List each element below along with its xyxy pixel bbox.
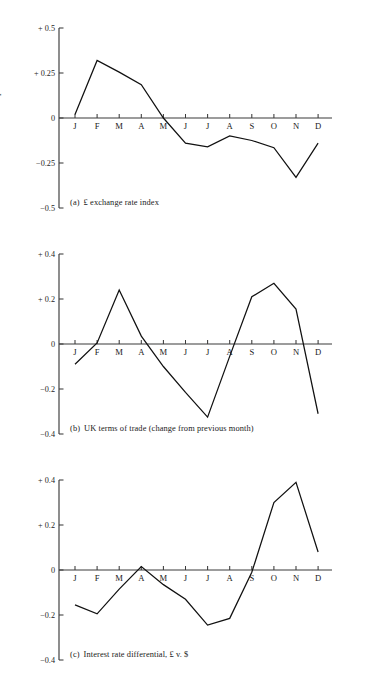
chart-c-caption-text: Interest rate differential, £ v. $ [84, 650, 189, 659]
chart-c-caption: (c)Interest rate differential, £ v. $ [70, 650, 188, 659]
x-tick-label-month: N [293, 347, 300, 357]
y-tick-label: + 0.2 [38, 521, 55, 530]
x-tick-label-month: S [249, 121, 254, 131]
x-tick-label-month: D [315, 121, 321, 131]
y-tick-label: + 0.25 [34, 69, 55, 78]
y-tick-label: + 0.4 [38, 476, 55, 485]
chart-a-caption-label: (a) [70, 198, 80, 207]
x-tick-label-month: M [160, 573, 168, 583]
y-tick-label: + 0.4 [38, 250, 55, 259]
x-tick-label-month: M [115, 347, 123, 357]
chart-a-container: deviation index points + 0.5+ 0.250−0.25… [0, 0, 373, 226]
chart-a-plot: + 0.5+ 0.250−0.25−0.5JFMAMJJASOND [0, 0, 373, 226]
chart-b-container: deviation % points + 0.4+ 0.20−0.2−0.4JF… [0, 226, 373, 452]
x-tick-label-month: S [249, 347, 254, 357]
y-tick-label: 0 [51, 340, 55, 349]
x-tick-label-month: M [160, 347, 168, 357]
y-tick-label: + 0.5 [38, 24, 55, 33]
data-series-line [75, 60, 318, 177]
x-tick-label-month: D [315, 347, 321, 357]
x-tick-label-month: M [160, 121, 168, 131]
x-tick-label-month: N [293, 573, 300, 583]
x-tick-label-month: O [271, 121, 277, 131]
x-tick-label-month: O [271, 573, 277, 583]
chart-a-caption: (a)£ exchange rate index [70, 198, 159, 207]
y-tick-label: −0.2 [40, 385, 55, 394]
y-tick-label: −0.25 [36, 159, 55, 168]
x-tick-label-month: D [315, 573, 321, 583]
x-tick-label-month: A [227, 121, 234, 131]
x-tick-label-month: F [95, 573, 100, 583]
x-tick-label-month: F [95, 347, 100, 357]
x-tick-label-month: O [271, 347, 277, 357]
chart-c-container: deviation % points + 0.4+ 0.20−0.2−0.4JF… [0, 452, 373, 678]
chart-c-plot: + 0.4+ 0.20−0.2−0.4JFMAMJJASOND [0, 452, 373, 678]
chart-b-caption: (b)UK terms of trade (change from previo… [70, 424, 254, 433]
chart-c-caption-label: (c) [70, 650, 80, 659]
x-tick-label-month: J [206, 573, 210, 583]
chart-a-caption-text: £ exchange rate index [84, 198, 159, 207]
x-tick-label-month: J [206, 121, 210, 131]
x-tick-label-month: J [73, 347, 77, 357]
y-tick-label: 0 [51, 566, 55, 575]
y-tick-label: −0.5 [40, 204, 55, 213]
chart-b-plot: + 0.4+ 0.20−0.2−0.4JFMAMJJASOND [0, 226, 373, 452]
y-tick-label: −0.4 [40, 430, 55, 439]
data-series-line [75, 283, 318, 417]
y-tick-label: 0 [51, 114, 55, 123]
x-tick-label-month: N [293, 121, 300, 131]
x-tick-label-month: A [227, 573, 234, 583]
x-tick-label-month: A [138, 347, 145, 357]
y-tick-label: + 0.2 [38, 295, 55, 304]
chart-b-caption-text: UK terms of trade (change from previous … [84, 424, 254, 433]
x-tick-label-month: J [184, 121, 188, 131]
x-tick-label-month: J [206, 347, 210, 357]
x-tick-label-month: M [115, 121, 123, 131]
x-tick-label-month: M [115, 573, 123, 583]
y-tick-label: −0.2 [40, 611, 55, 620]
x-tick-label-month: F [95, 121, 100, 131]
x-tick-label-month: J [73, 121, 77, 131]
figure-page: deviation index points + 0.5+ 0.250−0.25… [0, 0, 373, 680]
y-tick-label: −0.4 [40, 656, 55, 665]
x-tick-label-month: J [184, 347, 188, 357]
data-series-line [75, 482, 318, 625]
x-tick-label-month: J [184, 573, 188, 583]
x-tick-label-month: J [73, 573, 77, 583]
x-tick-label-month: A [138, 573, 145, 583]
x-tick-label-month: A [138, 121, 145, 131]
chart-b-caption-label: (b) [70, 424, 80, 433]
